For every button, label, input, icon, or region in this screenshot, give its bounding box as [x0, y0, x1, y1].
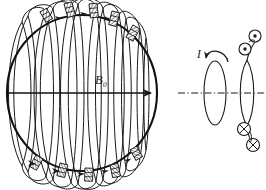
- physics-figure: B₀ I: [0, 0, 266, 190]
- dot-in-circle-icon: [239, 43, 251, 55]
- cross-in-circle-icon: [238, 123, 251, 136]
- figure-canvas: B₀ I: [0, 0, 266, 190]
- b0-label: B₀: [95, 73, 107, 87]
- cross-in-circle-icon: [247, 139, 260, 152]
